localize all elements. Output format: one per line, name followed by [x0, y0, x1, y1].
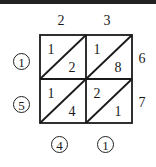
top-digit-1: 2: [54, 14, 68, 28]
cell-0-0-tens: 1: [45, 43, 57, 57]
cell-0-1-tens: 1: [91, 43, 103, 57]
lattice-grid: [0, 0, 156, 167]
result-digit-circle-1b: 1: [97, 136, 114, 153]
cell-1-1-ones: 1: [112, 105, 124, 119]
result-digit-circle-5: 5: [13, 96, 30, 113]
right-digit-1: 6: [135, 52, 149, 66]
cell-0-1-ones: 8: [112, 61, 124, 75]
cell-1-0-ones: 4: [66, 105, 78, 119]
result-digit-circle-1: 1: [13, 53, 30, 70]
cell-1-0-tens: 1: [45, 87, 57, 101]
cell-1-1-tens: 2: [91, 87, 103, 101]
right-digit-2: 7: [135, 96, 149, 110]
top-digit-2: 3: [100, 14, 114, 28]
result-digit-circle-4: 4: [51, 136, 68, 153]
cell-0-0-ones: 2: [66, 61, 78, 75]
